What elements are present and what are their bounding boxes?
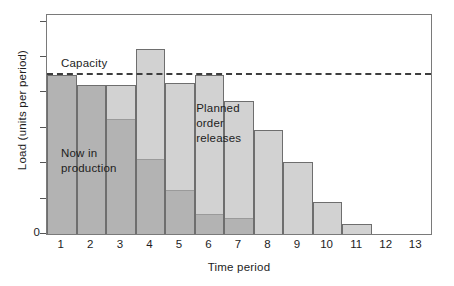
bar-segment-planned-period-8 <box>255 131 283 234</box>
annotation-now-in-production: Now in production <box>61 146 117 176</box>
annotation-planned-order-releases: Planned order releases <box>196 101 241 146</box>
bar-period-8 <box>254 130 284 234</box>
bar-segment-production-period-3 <box>107 119 135 234</box>
y-axis-title: Load (units per period) <box>16 25 28 195</box>
bar-period-4 <box>136 49 166 234</box>
bar-segment-production-period-5 <box>166 190 194 234</box>
capacity-label: Capacity <box>61 57 107 69</box>
bar-period-5 <box>165 83 195 234</box>
x-tick-label-4: 4 <box>135 238 165 250</box>
x-tick-label-12: 12 <box>371 238 401 250</box>
bar-segment-production-period-6 <box>196 214 224 234</box>
bar-segment-planned-period-5 <box>166 84 194 191</box>
x-axis-tick-labels: 12345678910111213 <box>46 238 432 256</box>
x-tick-label-11: 11 <box>341 238 371 250</box>
bar-segment-planned-period-9 <box>284 163 312 234</box>
x-axis-title: Time period <box>46 261 432 273</box>
capacity-line <box>47 73 431 75</box>
x-tick-label-9: 9 <box>282 238 312 250</box>
y-axis-zero-label: 0 <box>26 226 40 238</box>
bar-period-11 <box>342 224 372 234</box>
x-tick-label-13: 13 <box>400 238 430 250</box>
bar-period-6 <box>195 75 225 234</box>
bar-segment-planned-period-10 <box>314 203 342 234</box>
bar-segment-planned-period-4 <box>137 50 165 159</box>
bar-segment-planned-period-11 <box>343 225 371 234</box>
x-tick-label-8: 8 <box>253 238 283 250</box>
x-tick-label-6: 6 <box>194 238 224 250</box>
x-tick-label-5: 5 <box>164 238 194 250</box>
plot-area: Capacity Now in production Planned order… <box>47 15 431 234</box>
plot-frame: Capacity Now in production Planned order… <box>46 14 432 235</box>
x-tick-label-2: 2 <box>76 238 106 250</box>
x-tick-label-1: 1 <box>46 238 76 250</box>
bar-segment-production-period-7 <box>225 218 253 234</box>
bar-period-10 <box>313 202 343 234</box>
bar-period-9 <box>283 162 313 234</box>
bar-segment-production-period-4 <box>137 159 165 234</box>
x-tick-label-7: 7 <box>223 238 253 250</box>
x-tick-label-3: 3 <box>105 238 135 250</box>
load-profile-figure: Load (units per period) 0 Capacity Now i… <box>0 0 454 286</box>
x-tick-label-10: 10 <box>312 238 342 250</box>
bar-segment-planned-period-3 <box>107 86 135 120</box>
